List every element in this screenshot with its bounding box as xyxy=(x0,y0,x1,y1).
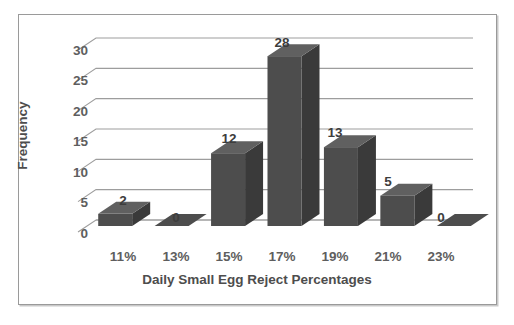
bar-value-label-1: 0 xyxy=(156,210,196,225)
bar-value-label-4: 13 xyxy=(315,125,355,140)
y-tick-label-20: 20 xyxy=(54,104,88,119)
y-axis-title: Frequency xyxy=(15,76,30,196)
bar-value-label-5: 5 xyxy=(368,174,408,189)
x-tick-label-19pct: 19% xyxy=(305,249,365,264)
x-tick-label-21pct: 21% xyxy=(358,249,418,264)
bar-value-label-6: 0 xyxy=(421,210,461,225)
y-tick-label-0: 0 xyxy=(54,226,88,241)
x-tick-label-23pct: 23% xyxy=(411,249,471,264)
bar-value-label-2: 12 xyxy=(209,131,249,146)
y-tick-label-5: 5 xyxy=(54,195,88,210)
x-tick-label-15pct: 15% xyxy=(199,249,259,264)
x-axis-title: Daily Small Egg Reject Percentages xyxy=(0,272,514,287)
y-tick-label-25: 25 xyxy=(54,73,88,88)
x-tick-label-11pct: 11% xyxy=(93,249,153,264)
x-tick-label-13pct: 13% xyxy=(146,249,206,264)
bar-value-label-3: 28 xyxy=(262,35,302,50)
y-tick-label-30: 30 xyxy=(54,43,88,58)
y-tick-label-15: 15 xyxy=(54,134,88,149)
x-tick-label-17pct: 17% xyxy=(252,249,312,264)
bar-value-label-0: 2 xyxy=(103,193,143,208)
y-tick-label-10: 10 xyxy=(54,165,88,180)
chart-container: 30 25 20 15 10 5 0 11% 13% 15% 17% 19% 2… xyxy=(0,0,514,325)
